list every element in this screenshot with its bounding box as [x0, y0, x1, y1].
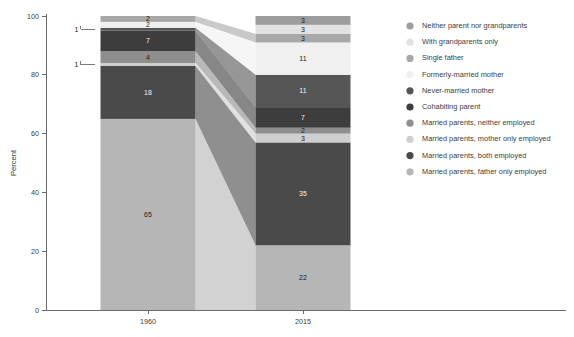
segment-value-callout: 1 — [75, 61, 79, 68]
legend-swatch-icon — [406, 120, 413, 127]
segment-value-label: 3 — [301, 135, 305, 142]
bar-segment[interactable] — [101, 63, 196, 66]
legend-label: Single father — [422, 53, 464, 62]
segment-value-label: 11 — [299, 55, 306, 62]
segment-value-label: 11 — [299, 87, 306, 94]
segment-value-label: 4 — [146, 54, 150, 61]
segment-value-label: 3 — [301, 35, 305, 42]
legend-swatch-icon — [406, 103, 413, 110]
legend-label: Cohabiting parent — [422, 102, 480, 111]
legend-swatch-icon — [406, 22, 413, 29]
legend: Neither parent nor grandparentsWith gran… — [406, 21, 550, 176]
legend-label: With grandparents only — [422, 37, 498, 46]
legend-swatch-icon — [406, 168, 413, 175]
segment-value-label: 18 — [144, 89, 152, 96]
legend-item[interactable]: With grandparents only — [406, 37, 498, 46]
legend-swatch-icon — [406, 39, 413, 46]
legend-item[interactable]: Married parents, father only employed — [406, 167, 546, 176]
y-axis-tick-label: 0 — [35, 306, 39, 315]
legend-swatch-icon — [406, 55, 413, 62]
segment-value-label: 7 — [301, 114, 305, 121]
legend-item[interactable]: Married parents, neither employed — [406, 118, 534, 127]
legend-label: Married parents, neither employed — [422, 118, 535, 127]
segment-value-callout: 1 — [75, 26, 79, 33]
legend-item[interactable]: Married parents, mother only employed — [406, 134, 550, 143]
segment-value-label: 3 — [301, 17, 305, 24]
legend-label: Neither parent nor grandparents — [422, 21, 527, 30]
callout-leader-line — [81, 26, 95, 30]
legend-swatch-icon — [406, 152, 413, 159]
stacked-bar-chart: 651847222235327111133311020406080100Perc… — [0, 0, 574, 337]
y-axis-tick-label: 20 — [31, 247, 39, 256]
legend-swatch-icon — [406, 136, 413, 143]
y-axis-tick-label: 60 — [31, 129, 39, 138]
segment-value-label: 35 — [299, 190, 307, 197]
legend-item[interactable]: Never-married mother — [406, 86, 494, 95]
callout-leader-line — [81, 61, 95, 65]
legend-label: Formerly-married mother — [422, 70, 504, 79]
legend-label: Married parents, mother only employed — [422, 134, 551, 143]
segment-value-label: 2 — [301, 127, 305, 134]
x-axis-tick-label[interactable]: 1960 — [140, 317, 156, 326]
legend-label: Never-married mother — [422, 86, 495, 95]
legend-item[interactable]: Single father — [406, 53, 464, 62]
legend-item[interactable]: Formerly-married mother — [406, 70, 504, 79]
x-axis-tick-label[interactable]: 2015 — [295, 317, 311, 326]
segment-value-label: 2 — [146, 15, 150, 22]
segment-value-label: 7 — [146, 37, 150, 44]
legend-swatch-icon — [406, 71, 413, 78]
legend-swatch-icon — [406, 87, 413, 94]
flow-ribbons — [196, 16, 256, 310]
legend-label: Married parents, father only employed — [422, 167, 546, 176]
chart-root: 651847222235327111133311020406080100Perc… — [0, 0, 574, 337]
segment-value-label: 3 — [301, 26, 305, 33]
callouts-layer: 11 — [75, 26, 95, 68]
segment-value-label: 22 — [299, 274, 307, 281]
legend-label: Married parents, both employed — [422, 151, 526, 160]
y-axis-tick-label: 100 — [27, 12, 39, 21]
legend-item[interactable]: Cohabiting parent — [406, 102, 480, 111]
segment-value-label: 65 — [144, 211, 152, 218]
y-axis-tick-label: 80 — [31, 70, 39, 79]
y-axis-tick-label: 40 — [31, 188, 39, 197]
legend-item[interactable]: Neither parent nor grandparents — [406, 21, 527, 30]
y-axis-title: Percent — [9, 149, 18, 176]
legend-item[interactable]: Married parents, both employed — [406, 151, 526, 160]
